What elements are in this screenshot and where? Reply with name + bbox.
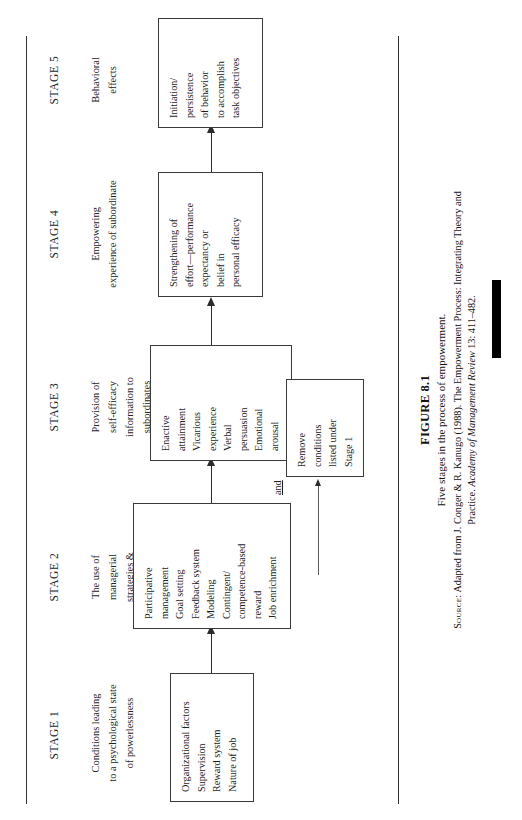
stage-header-5: STAGE 5 bbox=[48, 20, 60, 140]
stage-subtitle-line: Conditions leading bbox=[88, 658, 105, 808]
rule-top bbox=[26, 36, 27, 804]
stage-subtitle-line: The use of bbox=[88, 512, 105, 642]
box-line: Reward system bbox=[209, 683, 225, 792]
stage-header-1: STAGE 1 bbox=[48, 670, 60, 800]
box-line: personal efficacy bbox=[228, 182, 244, 287]
box-stage-3: Enactive attainment Vicarious experience… bbox=[150, 345, 292, 461]
stage-subtitle-line: managerial bbox=[105, 512, 122, 642]
figure-source: Source: Adapted from J. Conger & R. Kanu… bbox=[451, 0, 480, 820]
arrow-head-stage4 bbox=[207, 297, 215, 306]
box-line: Initiation/ bbox=[166, 28, 182, 118]
stage-subtitle-line: Empowering bbox=[88, 146, 105, 322]
stage-subtitle-line: information to bbox=[122, 339, 139, 475]
stage-subtitle-line: self-efficacy bbox=[105, 339, 122, 475]
stage-subtitle-5: Behavioral effects bbox=[88, 20, 122, 140]
rotated-page-content: STAGE 1 STAGE 2 STAGE 3 STAGE 4 STAGE 5 … bbox=[0, 0, 522, 820]
box-line: management bbox=[157, 513, 173, 619]
figure-description: Five stages in the process of empowermen… bbox=[435, 0, 447, 820]
scanned-page: STAGE 1 STAGE 2 STAGE 3 STAGE 4 STAGE 5 … bbox=[0, 0, 522, 820]
box-line: Strengthening of bbox=[166, 182, 182, 287]
box-line: Organizational factors bbox=[178, 683, 194, 792]
connector-remove-conditions bbox=[318, 481, 319, 575]
stage-subtitle-line: to a psychological state bbox=[105, 658, 122, 808]
source-text-suffix: 13: 411–482. bbox=[466, 295, 477, 348]
stage-header-4: STAGE 4 bbox=[48, 154, 60, 314]
box-line: reward bbox=[250, 513, 266, 619]
box-line: Remove bbox=[294, 389, 310, 467]
box-stage-5: Initiation/ persistence of behavior to a… bbox=[158, 18, 263, 128]
connector-stage3-to-stage4 bbox=[211, 301, 212, 345]
box-line: expectancy or bbox=[197, 182, 213, 287]
figure-number: FIGURE 8.1 bbox=[418, 0, 433, 820]
box-remove-conditions: Remove conditions listed under Stage 1 bbox=[286, 379, 364, 477]
source-label: Source: bbox=[452, 595, 463, 629]
box-line: Enactive bbox=[158, 355, 174, 451]
box-line: Modeling bbox=[203, 513, 219, 619]
stage-subtitle-1: Conditions leading to a psychological st… bbox=[88, 658, 139, 808]
arrow-head-remove-conditions bbox=[315, 479, 321, 486]
stage-header-2: STAGE 2 bbox=[48, 512, 60, 642]
box-line: listed under bbox=[325, 389, 341, 467]
box-line: Emotional bbox=[251, 355, 267, 451]
connector-stage2-to-stage3 bbox=[211, 461, 212, 503]
box-line: Supervision bbox=[194, 683, 210, 792]
stage-subtitle-line: effects bbox=[105, 20, 122, 140]
box-line: Stage 1 bbox=[341, 389, 357, 467]
box-line: experience bbox=[205, 355, 221, 451]
box-line: conditions bbox=[310, 389, 326, 467]
box-line: persistence bbox=[182, 28, 198, 118]
box-line: of behavior bbox=[197, 28, 213, 118]
box-line: persuasion bbox=[236, 355, 252, 451]
box-line: Job enrichment bbox=[265, 513, 281, 619]
box-line: Nature of job bbox=[225, 683, 241, 792]
box-stage-2: Participative management Goal setting Fe… bbox=[133, 503, 291, 629]
connector-stage1-to-stage2 bbox=[211, 629, 212, 673]
box-line: Feedback system bbox=[188, 513, 204, 619]
box-line: attainment bbox=[174, 355, 190, 451]
box-line: Vicarious bbox=[189, 355, 205, 451]
rule-above-caption bbox=[398, 36, 399, 804]
box-line: to accomplish bbox=[213, 28, 229, 118]
box-line: belief in bbox=[213, 182, 229, 287]
box-line: Participative bbox=[141, 513, 157, 619]
figure-caption: FIGURE 8.1 Five stages in the process of… bbox=[418, 0, 480, 820]
box-line: task objectives bbox=[228, 28, 244, 118]
box-line: competence-based bbox=[234, 513, 250, 619]
stage-header-3: STAGE 3 bbox=[48, 342, 60, 472]
box-stage-4: Strengthening of effort—performance expe… bbox=[158, 172, 263, 297]
box-line: arousal bbox=[267, 355, 283, 451]
source-text-prefix: Practice. bbox=[466, 489, 477, 524]
connector-stage4-to-stage5 bbox=[211, 128, 212, 172]
stage-subtitle-4: Empowering experience of subordinate bbox=[88, 146, 122, 322]
source-text-line-1: Adapted from J. Conger & R. Kanugo (1988… bbox=[452, 191, 463, 592]
stage-subtitle-line: Provision of bbox=[88, 339, 105, 475]
stage-subtitle-line: Behavioral bbox=[88, 20, 105, 140]
stage-subtitle-line: experience of subordinate bbox=[105, 146, 122, 322]
box-line: Verbal bbox=[220, 355, 236, 451]
and-connector-label: and bbox=[272, 480, 283, 495]
source-journal-title: Academy of Management Review bbox=[466, 351, 477, 487]
stage-subtitle-line: of powerlessness bbox=[122, 658, 139, 808]
figure-diagram: STAGE 1 STAGE 2 STAGE 3 STAGE 4 STAGE 5 … bbox=[0, 0, 522, 820]
box-line: Goal setting bbox=[172, 513, 188, 619]
box-line: effort—performance bbox=[182, 182, 198, 287]
box-stage-1: Organizational factors Supervision Rewar… bbox=[170, 673, 254, 802]
page-edge-marker bbox=[492, 280, 501, 358]
box-line: Contingent/ bbox=[219, 513, 235, 619]
